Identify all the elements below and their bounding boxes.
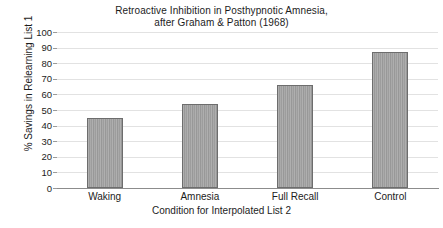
y-tick-label: 100 — [26, 28, 52, 37]
y-tick-mark — [53, 157, 57, 158]
gridline — [57, 48, 438, 49]
y-tick-label: 50 — [26, 106, 52, 115]
x-tick-label: Control — [330, 191, 443, 203]
y-tick-mark — [53, 79, 57, 80]
y-tick-label: 20 — [26, 152, 52, 161]
y-tick-label: 30 — [26, 137, 52, 146]
chart-title-line-1: Retroactive Inhibition in Posthypnotic A… — [0, 5, 443, 17]
y-tick-mark — [53, 172, 57, 173]
chart-title-line-2: after Graham & Patton (1968) — [0, 17, 443, 29]
y-tick-label: 70 — [26, 74, 52, 83]
plot-area — [57, 32, 438, 188]
bar-full-recall[interactable] — [277, 85, 313, 188]
y-tick-label: 40 — [26, 121, 52, 130]
y-tick-mark — [53, 141, 57, 142]
y-tick-mark — [53, 94, 57, 95]
y-tick-label: 10 — [26, 168, 52, 177]
y-tick-mark — [53, 48, 57, 49]
bar-chart-figure: Retroactive Inhibition in Posthypnotic A… — [0, 0, 443, 228]
y-tick-label: 90 — [26, 43, 52, 52]
y-tick-label: 80 — [26, 59, 52, 68]
y-tick-mark — [53, 63, 57, 64]
bar-amnesia[interactable] — [182, 104, 218, 188]
bar-waking[interactable] — [87, 118, 123, 188]
y-tick-mark — [53, 32, 57, 33]
y-tick-label: 60 — [26, 90, 52, 99]
x-axis-line — [53, 188, 439, 189]
y-axis-tick-labels: 0102030405060708090100 — [24, 32, 52, 188]
gridline — [57, 32, 438, 33]
y-tick-mark — [53, 126, 57, 127]
chart-title: Retroactive Inhibition in Posthypnotic A… — [0, 5, 443, 29]
y-tick-mark — [53, 110, 57, 111]
y-tick-mark — [53, 188, 57, 189]
x-axis-label: Condition for Interpolated List 2 — [0, 205, 443, 216]
bar-control[interactable] — [372, 52, 408, 188]
